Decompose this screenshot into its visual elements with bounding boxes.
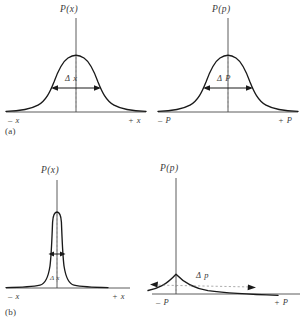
probability-curve bbox=[148, 274, 278, 295]
x-axis-label-right: + x bbox=[128, 116, 141, 125]
spread-label: Δ P bbox=[217, 74, 231, 83]
x-axis-label-right: + x bbox=[112, 292, 125, 301]
x-axis-label-left: – x bbox=[8, 292, 20, 301]
panel-a-momentum: P(p) Δ P – P + P bbox=[152, 0, 304, 140]
panel-b-momentum: P(p) Δ p – P + P bbox=[152, 158, 304, 308]
x-axis-label-right: + P bbox=[278, 116, 293, 125]
part-label-b: (b) bbox=[5, 308, 16, 317]
figure-canvas: P(x) Δ x – x + x P(p) Δ P – P + P (a) bbox=[0, 0, 304, 324]
x-axis-label-left: – P bbox=[158, 116, 171, 125]
spread-guide bbox=[154, 285, 252, 287]
spread-arrow-head-right bbox=[248, 284, 256, 290]
panel-a-position: P(x) Δ x – x + x bbox=[0, 0, 152, 140]
y-axis-label: P(p) bbox=[212, 5, 230, 15]
y-axis-label: P(p) bbox=[160, 164, 178, 174]
spread-label: Δ x bbox=[50, 275, 60, 282]
y-axis-label: P(x) bbox=[60, 5, 78, 15]
panel-b-position-plot bbox=[0, 158, 152, 308]
spread-label: Δ x bbox=[65, 74, 78, 83]
panel-b-momentum-plot bbox=[152, 158, 304, 308]
spread-label: Δ p bbox=[196, 271, 209, 280]
spread-arrow-head-left bbox=[150, 282, 158, 288]
panel-b-position: P(x) Δ x – x + x bbox=[0, 158, 152, 308]
y-axis-label: P(x) bbox=[41, 166, 59, 176]
part-label-a: (a) bbox=[5, 127, 16, 136]
x-axis-label-left: – x bbox=[8, 116, 20, 125]
x-axis-label-left: – P bbox=[156, 298, 169, 307]
x-axis-label-right: + P bbox=[274, 298, 289, 307]
